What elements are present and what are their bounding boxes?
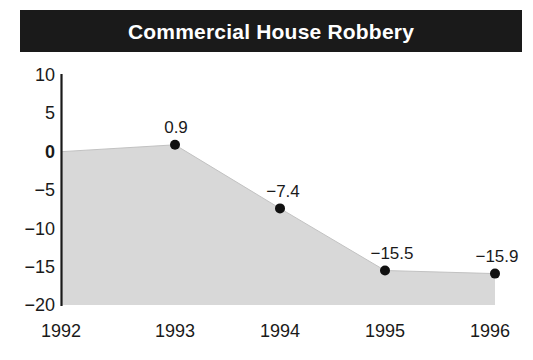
data-label-1995: −15.5 — [370, 245, 413, 262]
y-axis-tick-label: −20 — [24, 296, 55, 314]
y-axis-tick-label: −15 — [24, 258, 55, 276]
data-point-marker-1995 — [380, 266, 390, 276]
y-axis-tick-label: 5 — [45, 104, 55, 122]
x-axis-tick-1995: 1995 — [365, 322, 405, 340]
data-label-1993: 0.9 — [164, 119, 188, 136]
x-axis-tick-1993: 1993 — [155, 322, 195, 340]
area-fill-polygon — [61, 145, 495, 305]
area-chart-plot — [0, 0, 533, 360]
data-label-1996: −15.9 — [475, 248, 518, 265]
x-axis-tick-1992: 1992 — [41, 322, 81, 340]
data-point-marker-1996 — [490, 269, 500, 279]
chart-area: 10 5 0 −5 −10 −15 −20 1992 1993 1994 199… — [0, 0, 533, 360]
y-axis-tick-label: 10 — [35, 66, 55, 84]
x-axis-tick-1994: 1994 — [260, 322, 300, 340]
y-axis-tick-label: −10 — [24, 220, 55, 238]
data-point-marker-1994 — [275, 203, 285, 213]
data-point-marker-1993 — [170, 140, 180, 150]
x-axis-tick-1996: 1996 — [470, 322, 510, 340]
y-axis-tick-label: −5 — [34, 181, 55, 199]
data-label-1994: −7.4 — [266, 183, 300, 200]
y-axis-tick-label: 0 — [45, 143, 55, 161]
